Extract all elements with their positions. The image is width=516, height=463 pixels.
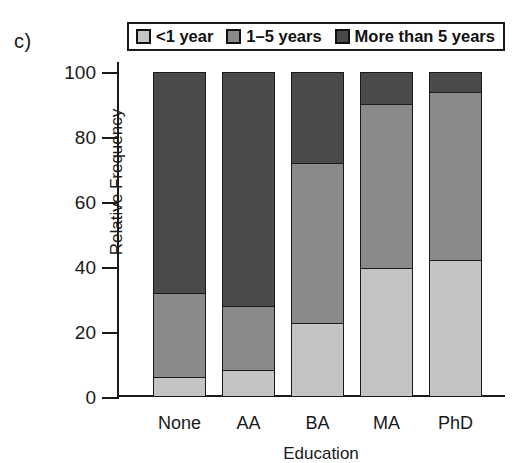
bar-segment bbox=[361, 73, 412, 104]
y-axis-tick-label: 0 bbox=[85, 387, 96, 409]
y-axis-tick: 100 bbox=[102, 72, 119, 74]
y-axis-tick: 60 bbox=[102, 202, 119, 204]
x-axis-tick-label: PhD bbox=[429, 413, 482, 434]
x-axis-tick-label: MA bbox=[360, 413, 413, 434]
y-axis-label: Relative Frequency bbox=[107, 72, 127, 292]
chart-plot-area: Education 020406080100NoneAABAMAPhD bbox=[153, 72, 489, 397]
legend-item-gt5: More than 5 years bbox=[335, 28, 495, 45]
bar-segment bbox=[430, 92, 481, 260]
bar-phd[interactable] bbox=[429, 72, 482, 397]
chart-plot-frame: Relative Frequency Education 02040608010… bbox=[117, 62, 505, 397]
legend-item-lt1: <1 year bbox=[136, 28, 213, 45]
legend-label-1to5: 1–5 years bbox=[246, 28, 321, 45]
legend-swatch-lt1 bbox=[136, 29, 151, 44]
bar-ba[interactable] bbox=[291, 72, 344, 397]
bar-segment bbox=[154, 73, 205, 293]
y-axis-tick-label: 60 bbox=[75, 192, 96, 214]
legend-item-1to5: 1–5 years bbox=[226, 28, 321, 45]
legend-label-gt5: More than 5 years bbox=[355, 28, 495, 45]
y-axis-tick-label: 40 bbox=[75, 257, 96, 279]
bar-segment bbox=[361, 268, 412, 396]
bar-segment bbox=[223, 306, 274, 371]
legend-swatch-1to5 bbox=[226, 29, 241, 44]
bar-segment bbox=[154, 293, 205, 377]
bar-segment bbox=[292, 73, 343, 163]
y-axis-tick-label: 20 bbox=[75, 322, 96, 344]
legend-label-lt1: <1 year bbox=[156, 28, 213, 45]
bar-segment bbox=[292, 163, 343, 323]
chart-legend: <1 year 1–5 years More than 5 years bbox=[127, 22, 505, 51]
y-axis-tick-label: 100 bbox=[64, 62, 96, 84]
bar-segment bbox=[223, 370, 274, 396]
bar-segment bbox=[154, 377, 205, 396]
bar-segment bbox=[223, 73, 274, 306]
bar-none[interactable] bbox=[153, 72, 206, 397]
panel-label: c) bbox=[14, 30, 32, 53]
bar-segment bbox=[361, 104, 412, 269]
bar-segment bbox=[430, 260, 481, 396]
bar-segment bbox=[430, 73, 481, 92]
x-axis-label: Education bbox=[153, 444, 489, 463]
legend-swatch-gt5 bbox=[335, 29, 350, 44]
x-axis-tick-label: None bbox=[153, 413, 206, 434]
y-axis-tick: 0 bbox=[102, 397, 119, 399]
y-axis-tick-label: 80 bbox=[75, 127, 96, 149]
x-axis-tick-label: AA bbox=[222, 413, 275, 434]
bar-ma[interactable] bbox=[360, 72, 413, 397]
bar-aa[interactable] bbox=[222, 72, 275, 397]
y-axis-tick: 20 bbox=[102, 332, 119, 334]
y-axis-tick: 80 bbox=[102, 137, 119, 139]
y-axis-tick: 40 bbox=[102, 267, 119, 269]
bar-segment bbox=[292, 323, 343, 396]
x-axis-tick-label: BA bbox=[291, 413, 344, 434]
